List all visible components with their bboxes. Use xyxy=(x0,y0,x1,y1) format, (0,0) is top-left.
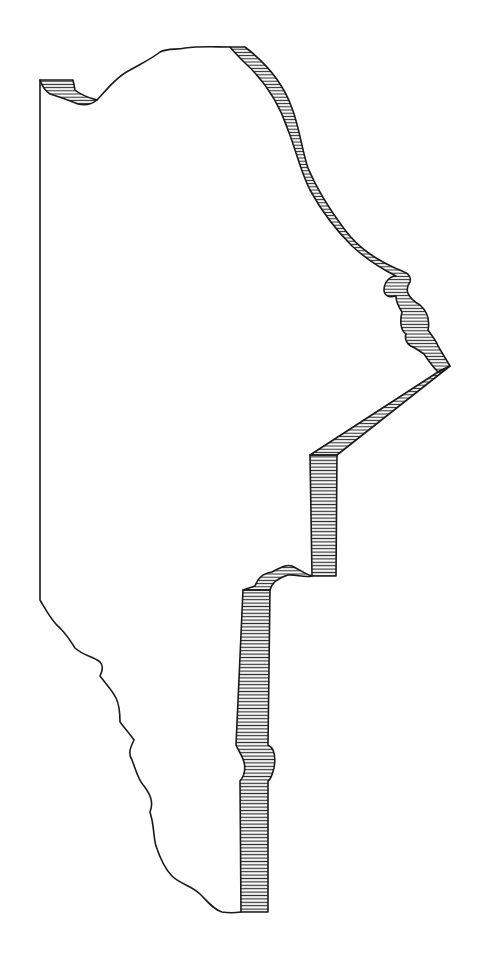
lower-vertical-hatched-band xyxy=(236,590,275,912)
diagonal-hatched-band xyxy=(310,366,450,455)
small-step-hatched-band xyxy=(243,565,312,590)
molding-profile-drawing xyxy=(0,0,486,954)
top-left-hatched-lip xyxy=(40,80,97,105)
upper-right-hatched-band xyxy=(230,47,450,372)
middle-vertical-hatched-band xyxy=(310,455,337,576)
main-profile-outline xyxy=(40,47,241,913)
